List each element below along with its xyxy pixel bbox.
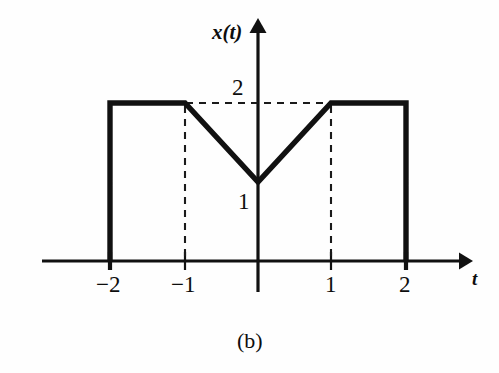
x-tick-label-pos2: 2 [399,273,411,296]
x-tick-label-neg1: −1 [171,273,195,296]
y-axis-label: x(t) [212,22,242,43]
x-tick-label-neg2: −2 [96,273,120,296]
y-tick-label-1: 1 [238,190,250,213]
x-tick-label-pos1: 1 [325,273,337,296]
figure-container: x(t) t 2 1 −2 −1 1 2 (b) [0,0,499,373]
x-axis-arrowhead [459,253,473,270]
figure-caption: (b) [237,330,263,352]
signal-plot [0,0,499,373]
y-axis-arrowhead [250,18,267,33]
y-tick-label-2: 2 [232,76,244,99]
x-axis-label: t [472,269,477,288]
